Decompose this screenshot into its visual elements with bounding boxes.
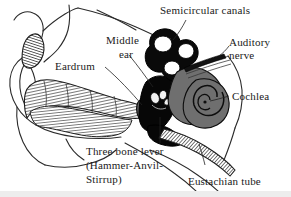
label-auditory-nerve-line2: nerve <box>229 49 254 61</box>
ear-anatomy-figure: Semicircular canals Auditory nerve Cochl… <box>0 0 291 197</box>
label-middle-ear-line1: Middle <box>106 34 139 46</box>
label-eustachian-tube: Eustachian tube <box>188 175 261 187</box>
cochlea-spiral <box>183 79 229 128</box>
label-cochlea: Cochlea <box>232 90 269 102</box>
label-semicircular-canals: Semicircular canals <box>160 4 250 16</box>
label-three-bone-lever-line3: Stirrup) <box>86 173 122 186</box>
cochlea-apex <box>203 100 206 103</box>
label-middle-ear-line2: ear <box>119 48 133 60</box>
label-eardrum: Eardrum <box>55 60 95 72</box>
canal-loop-lateral <box>178 44 194 59</box>
ear-anatomy-drawing: Semicircular canals Auditory nerve Cochl… <box>0 0 291 197</box>
label-auditory-nerve-line1: Auditory <box>229 36 271 48</box>
label-three-bone-lever-line1: Three bone lever <box>86 145 164 157</box>
bottom-edge-strip <box>0 191 291 197</box>
label-three-bone-lever-line2: (Hammer-Anvil- <box>86 159 163 172</box>
canal-loop-superior <box>154 36 172 52</box>
